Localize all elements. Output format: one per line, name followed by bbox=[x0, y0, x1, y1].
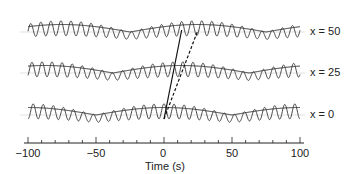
trace-x0 bbox=[28, 104, 300, 123]
xtick-label: −100 bbox=[16, 147, 41, 159]
envelope-x25 bbox=[28, 66, 300, 74]
envelope-x0 bbox=[28, 108, 300, 116]
x-axis-title: Time (s) bbox=[145, 160, 185, 172]
trace-label-x0: x = 0 bbox=[310, 108, 334, 120]
xtick-label: 100 bbox=[291, 147, 309, 159]
xtick-label: 0 bbox=[160, 147, 166, 159]
xtick-label: 50 bbox=[226, 147, 238, 159]
trace-x50 bbox=[28, 21, 300, 40]
xtick-label: −50 bbox=[87, 147, 106, 159]
trace-label-x25: x = 25 bbox=[310, 66, 340, 78]
trace-label-x50: x = 50 bbox=[310, 25, 340, 37]
